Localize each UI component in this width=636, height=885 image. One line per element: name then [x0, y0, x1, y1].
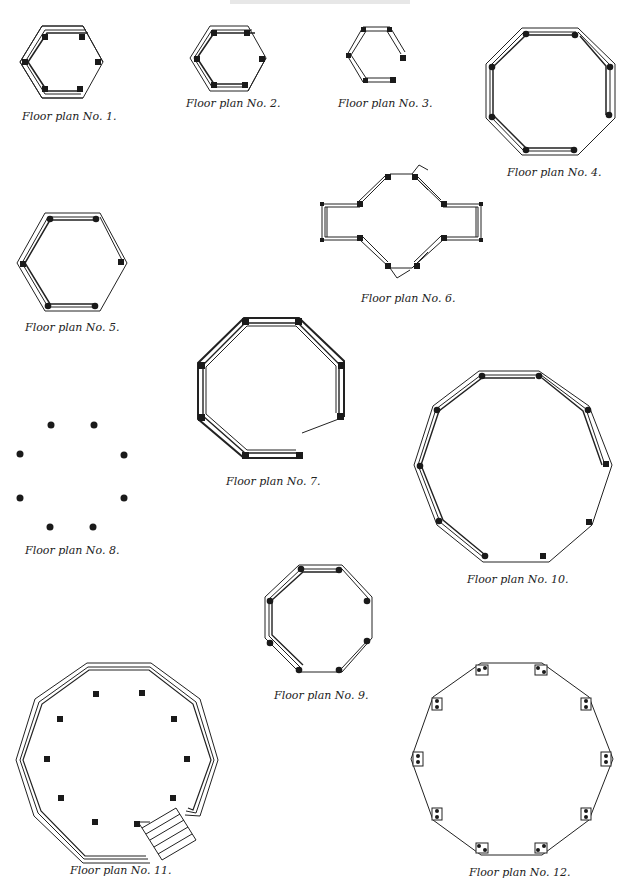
floor-plan-12-drawing	[0, 0, 636, 880]
floor-plan-12-caption: Floor plan No. 12.	[469, 866, 570, 879]
